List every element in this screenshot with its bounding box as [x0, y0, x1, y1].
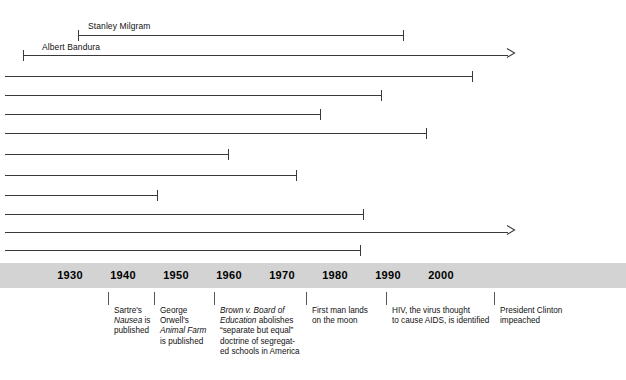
event-tick-mark [154, 292, 155, 305]
bar-line [5, 133, 426, 134]
decade-axis-band: 19301940195019601970198019902000 [0, 263, 626, 288]
axis-tick-label-1970: 1970 [269, 269, 295, 281]
event-tick-mark [108, 292, 109, 305]
event-text-line: is published [160, 337, 216, 347]
event-text: GeorgeOrwell'sAnimal Farmis published [160, 306, 216, 347]
event-tick-mark [494, 292, 495, 305]
event-text-line: Orwell's [160, 316, 216, 326]
event-text-line: Brown v. Board of [220, 306, 310, 316]
event-text-line: Nausea is [114, 316, 160, 326]
bar-line [5, 95, 381, 96]
bar-end-tick [320, 109, 321, 120]
axis-tick-label-1950: 1950 [163, 269, 189, 281]
lifespan-bar [0, 245, 626, 257]
bar-end-tick [426, 128, 427, 139]
bar-line [5, 250, 360, 251]
event-text-line: First man lands [312, 306, 382, 316]
event-text-line: on the moon [312, 316, 382, 326]
bar-line [5, 232, 508, 233]
bar-line [5, 214, 363, 215]
lifespan-bar [0, 30, 626, 42]
lifespan-bar [0, 109, 626, 121]
bar-start-tick [78, 30, 79, 41]
bar-line [5, 76, 472, 77]
bar-end-tick [157, 190, 158, 201]
axis-tick-label-1980: 1980 [322, 269, 348, 281]
bar-end-tick [363, 209, 364, 220]
bar-line [5, 175, 296, 176]
event-text: First man landson the moon [312, 306, 382, 326]
event-text-line: HIV, the virus thought [392, 306, 492, 316]
event-tick-mark [214, 292, 215, 305]
lifespan-bar [0, 227, 626, 239]
bar-line [5, 114, 320, 115]
event-text-line: doctrine of segregat- [220, 337, 310, 347]
lifespan-bar [0, 190, 626, 202]
bar-end-arrow-icon [506, 224, 516, 236]
lifespan-bar [0, 71, 626, 83]
bar-end-tick [296, 170, 297, 181]
event-text-line: published [114, 326, 160, 336]
event-tick-mark [306, 292, 307, 305]
bar-end-tick [360, 245, 361, 256]
bar-end-tick [403, 30, 404, 41]
timeline-diagram: Stanley MilgramAlbert Bandura 1930194019… [0, 0, 626, 380]
lifespan-bar [0, 128, 626, 140]
bar-end-tick [228, 149, 229, 160]
bar-end-tick [381, 90, 382, 101]
axis-tick-label-1990: 1990 [375, 269, 401, 281]
event-text: Sartre'sNausea ispublished [114, 306, 160, 337]
bar-line [23, 55, 508, 56]
event-text-line: ed schools in America [220, 347, 310, 357]
lifespan-bar [0, 90, 626, 102]
event-text: President Clintonimpeached [500, 306, 590, 326]
bar-end-tick [472, 71, 473, 82]
axis-tick-label-1940: 1940 [110, 269, 136, 281]
bar-start-tick [23, 50, 24, 61]
bar-line [78, 35, 403, 36]
event-text-line: “separate but equal” [220, 326, 310, 336]
bar-line [5, 154, 228, 155]
axis-tick-label-1930: 1930 [57, 269, 83, 281]
bar-label: Stanley Milgram [88, 22, 150, 31]
event-text: Brown v. Board ofEducation abolishes“sep… [220, 306, 310, 357]
event-text-line: George [160, 306, 216, 316]
bar-line [5, 195, 157, 196]
axis-tick-label-1960: 1960 [216, 269, 242, 281]
axis-tick-label-2000: 2000 [428, 269, 454, 281]
bar-label: Albert Bandura [42, 43, 100, 52]
event-text-line: to cause AIDS, is identified [392, 316, 492, 326]
event-text-line: Animal Farm [160, 326, 216, 336]
bar-end-arrow-icon [506, 47, 516, 59]
event-tick-mark [386, 292, 387, 305]
lifespan-bar [0, 209, 626, 221]
lifespan-bar [0, 149, 626, 161]
event-text-line: Education abolishes [220, 316, 310, 326]
event-text-line: Sartre's [114, 306, 160, 316]
event-text-line: impeached [500, 316, 590, 326]
lifespan-bar [0, 170, 626, 182]
event-text: HIV, the virus thoughtto cause AIDS, is … [392, 306, 492, 326]
event-text-line: President Clinton [500, 306, 590, 316]
